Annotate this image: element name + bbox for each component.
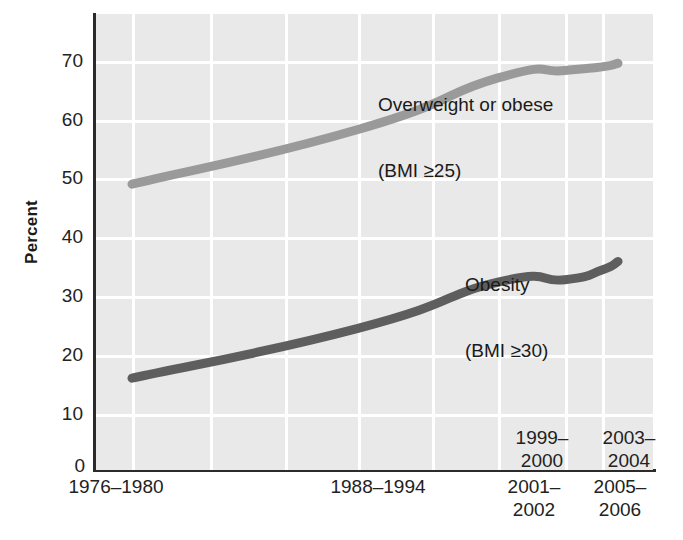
y-tick-20: 20 <box>37 345 83 364</box>
annotation-obesity-line2: (BMI ≥30) <box>465 340 548 362</box>
annotation-obesity-line1: Obesity <box>465 274 548 296</box>
x-tick-1976-1980: 1976–1980 <box>36 475 196 498</box>
y-tick-60: 60 <box>37 110 83 129</box>
x-tick-1999-2000: 1999– 2000 <box>500 426 584 472</box>
series-lines <box>96 14 653 470</box>
y-tick-40: 40 <box>37 227 83 246</box>
y-tick-30: 30 <box>37 286 83 305</box>
annotation-overweight-line1: Overweight or obese <box>378 94 553 116</box>
x-tick-2001-2002: 2001– 2002 <box>492 475 576 521</box>
chart-figure: Percent 70 60 50 40 30 20 10 0 <box>0 0 683 540</box>
y-tick-10: 10 <box>37 404 83 423</box>
annotation-overweight-line2: (BMI ≥25) <box>378 160 553 182</box>
x-tick-1988-1994: 1988–1994 <box>298 475 458 498</box>
plot-area: 1999– 2000 2003– 2004 Overweight or obes… <box>96 14 653 470</box>
y-tick-0: 0 <box>55 455 85 477</box>
y-tick-50: 50 <box>37 168 83 187</box>
annotation-obesity: Obesity (BMI ≥30) <box>465 230 548 406</box>
y-tick-70: 70 <box>37 51 83 70</box>
x-tick-2003-2004: 2003– 2004 <box>587 426 671 472</box>
x-tick-2005-2006: 2005– 2006 <box>578 475 662 521</box>
annotation-overweight-or-obese: Overweight or obese (BMI ≥25) <box>378 50 553 226</box>
